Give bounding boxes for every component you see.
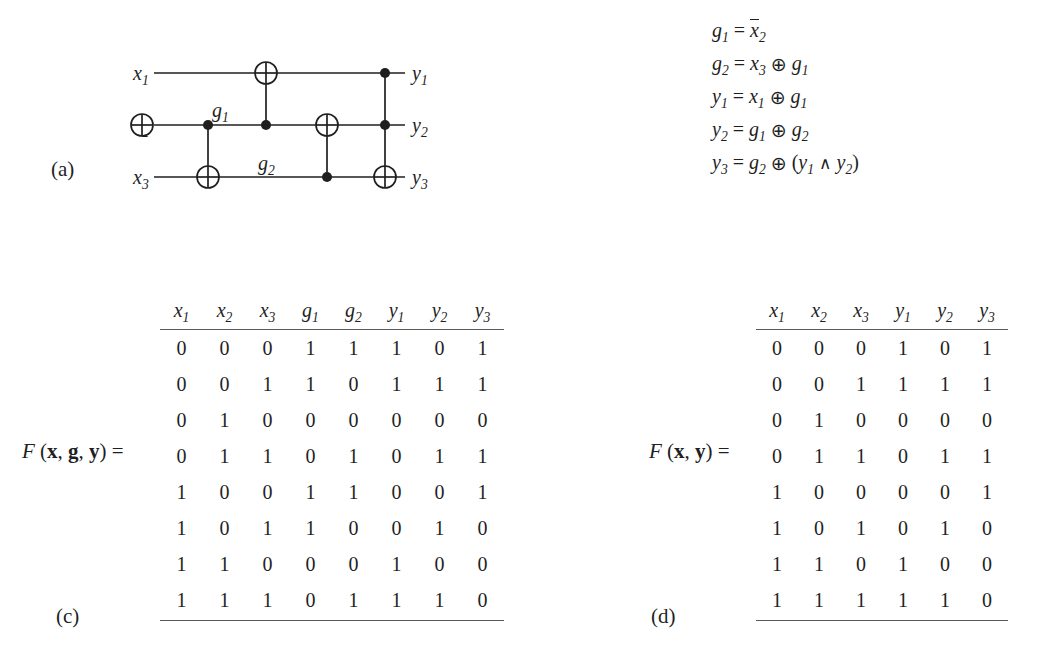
cell: 0 bbox=[798, 510, 840, 546]
col-header-x2: x2 bbox=[203, 296, 246, 330]
col-header-x1: x1 bbox=[756, 296, 798, 330]
cell: 0 bbox=[203, 474, 246, 510]
cell: 0 bbox=[924, 330, 966, 367]
cell: 1 bbox=[332, 474, 375, 510]
cell: 1 bbox=[246, 582, 289, 621]
circuit-diagram bbox=[120, 45, 410, 205]
cell: 0 bbox=[332, 546, 375, 582]
col-header-y2: y2 bbox=[924, 296, 966, 330]
col-header-x3: x3 bbox=[840, 296, 882, 330]
table-row: 11101110 bbox=[160, 582, 504, 621]
panel-label-a: (a) bbox=[51, 157, 74, 182]
cell: 1 bbox=[375, 366, 418, 402]
col-header-x2: x2 bbox=[798, 296, 840, 330]
function-label-d: F (x, y) = bbox=[649, 439, 730, 464]
cell: 0 bbox=[840, 402, 882, 438]
xor-gate-y1 bbox=[255, 62, 277, 84]
cell: 1 bbox=[840, 510, 882, 546]
cell: 1 bbox=[924, 438, 966, 474]
cell: 1 bbox=[924, 582, 966, 621]
cell: 1 bbox=[289, 330, 332, 367]
cell: 1 bbox=[924, 510, 966, 546]
table-header-row: x1 x2 x3 y1 y2 y3 bbox=[756, 296, 1008, 330]
truth-table-d-table: x1 x2 x3 y1 y2 y3 000101 001111 010000 0… bbox=[756, 296, 1008, 621]
xor-gate-g2 bbox=[197, 166, 219, 188]
cell: 0 bbox=[203, 366, 246, 402]
cell: 1 bbox=[246, 366, 289, 402]
control-dot-y1 bbox=[261, 120, 271, 130]
cell: 0 bbox=[418, 474, 461, 510]
cell: 0 bbox=[966, 402, 1008, 438]
cell: 0 bbox=[882, 438, 924, 474]
cell: 0 bbox=[461, 402, 504, 438]
cell: 1 bbox=[882, 582, 924, 621]
cell: 0 bbox=[966, 582, 1008, 621]
not-gate-x2 bbox=[131, 114, 153, 136]
panel-label-c: (c) bbox=[56, 604, 79, 629]
cell: 0 bbox=[840, 330, 882, 367]
table-row: 100001 bbox=[756, 474, 1008, 510]
cell: 1 bbox=[203, 438, 246, 474]
control-dot-g1 bbox=[203, 120, 213, 130]
col-header-y1: y1 bbox=[882, 296, 924, 330]
cell: 1 bbox=[418, 438, 461, 474]
cell: 1 bbox=[418, 366, 461, 402]
cell: 0 bbox=[882, 402, 924, 438]
cell: 0 bbox=[418, 402, 461, 438]
cell: 1 bbox=[246, 510, 289, 546]
cell: 1 bbox=[966, 330, 1008, 367]
equation-y1: y1 = x1 ⊕ g1 bbox=[712, 80, 859, 113]
col-header-y3: y3 bbox=[966, 296, 1008, 330]
cell: 0 bbox=[798, 366, 840, 402]
cell: 0 bbox=[375, 402, 418, 438]
cell: 1 bbox=[882, 330, 924, 367]
xor-symbol-icon: ⊕ bbox=[771, 152, 787, 174]
cell: 1 bbox=[418, 582, 461, 621]
cell: 1 bbox=[966, 438, 1008, 474]
table-row: 01101011 bbox=[160, 438, 504, 474]
cell: 0 bbox=[160, 402, 203, 438]
cell: 1 bbox=[332, 438, 375, 474]
control-dot-toffoli-y1 bbox=[380, 68, 390, 78]
cell: 1 bbox=[418, 510, 461, 546]
cell: 0 bbox=[160, 438, 203, 474]
equation-y3: y3 = g2 ⊕ (y1 ∧ y2) bbox=[712, 146, 859, 179]
cell: 0 bbox=[375, 438, 418, 474]
xor-gate-y3 bbox=[374, 166, 396, 188]
cell: 0 bbox=[246, 474, 289, 510]
table-row: 00011101 bbox=[160, 330, 504, 367]
table-body-c: 00011101 00110111 01000000 01101011 1001… bbox=[160, 330, 504, 621]
cell: 0 bbox=[840, 546, 882, 582]
control-dot-toffoli-y2 bbox=[380, 120, 390, 130]
table-row: 11000100 bbox=[160, 546, 504, 582]
xor-symbol-icon: ⊕ bbox=[770, 86, 786, 108]
cell: 1 bbox=[289, 366, 332, 402]
cell: 1 bbox=[840, 438, 882, 474]
cell: 1 bbox=[461, 438, 504, 474]
cell: 0 bbox=[840, 474, 882, 510]
cell: 1 bbox=[966, 366, 1008, 402]
cell: 1 bbox=[332, 330, 375, 367]
cell: 1 bbox=[756, 582, 798, 621]
cell: 0 bbox=[924, 474, 966, 510]
table-row: 111110 bbox=[756, 582, 1008, 621]
cell: 1 bbox=[332, 582, 375, 621]
cell: 0 bbox=[332, 510, 375, 546]
table-row: 011011 bbox=[756, 438, 1008, 474]
circuit-output-label-y1: y1 bbox=[412, 62, 428, 89]
table-row: 10110010 bbox=[160, 510, 504, 546]
cell: 1 bbox=[840, 366, 882, 402]
panel-label-d: (d) bbox=[651, 604, 676, 629]
cell: 1 bbox=[289, 510, 332, 546]
cell: 0 bbox=[375, 474, 418, 510]
col-header-g2: g2 bbox=[332, 296, 375, 330]
cell: 1 bbox=[461, 366, 504, 402]
table-body-d: 000101 001111 010000 011011 100001 10101… bbox=[756, 330, 1008, 621]
function-label-c: F (x, g, y) = bbox=[22, 439, 124, 464]
cell: 0 bbox=[289, 582, 332, 621]
cell: 1 bbox=[375, 546, 418, 582]
cell: 0 bbox=[882, 474, 924, 510]
cell: 0 bbox=[798, 330, 840, 367]
cell: 1 bbox=[203, 546, 246, 582]
cell: 0 bbox=[461, 546, 504, 582]
